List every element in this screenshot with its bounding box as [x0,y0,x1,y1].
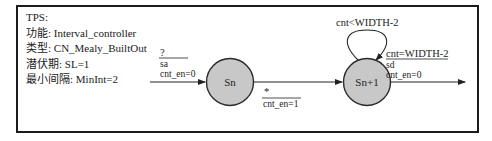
self-loop-condition: cnt<WIDTH-2 [336,17,398,28]
exit-transition: cnt=WIDTH-2 sd cnt_en=0 [386,48,465,82]
state-sn1: Sn+1 [344,59,391,106]
state-sn: Sn [207,59,254,106]
self-loop-arrow [347,30,386,60]
state-sn-label: Sn [224,76,236,88]
sn-to-sn1-output: cnt_en=1 [263,99,299,109]
sn-to-sn1-transition: * cnt_en=1 [254,82,342,109]
entry-output-1: sa [160,59,169,69]
entry-condition: ? [160,47,165,58]
entry-output-2: cnt_en=0 [160,69,196,79]
exit-condition: cnt=WIDTH-2 [386,48,448,59]
state-sn1-label: Sn+1 [355,76,378,88]
entry-transition: ? sa cnt_en=0 [150,47,205,82]
exit-output-2: cnt_en=0 [386,70,422,80]
sn-to-sn1-condition: * [264,86,269,97]
exit-output-1: sd [386,60,395,70]
state-diagram: ? sa cnt_en=0 Sn * cnt_en=1 cnt<WIDTH-2 … [0,0,492,141]
